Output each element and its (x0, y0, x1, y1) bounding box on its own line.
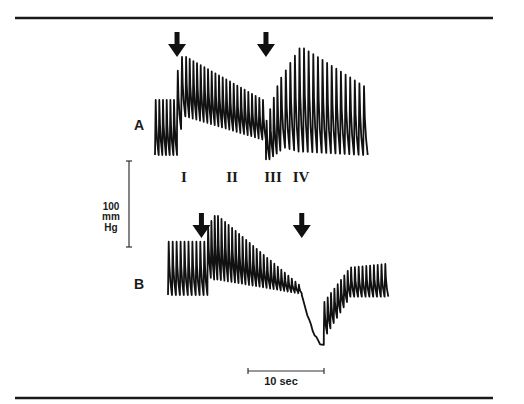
figure: A B I II III IV 100 mm Hg 10 sec (0, 0, 524, 404)
pressure-scale-unit-hg: Hg (104, 222, 117, 233)
pressure-scale-bar: 100 mm Hg (102, 161, 132, 247)
trace-line-a (155, 48, 368, 159)
time-scale-bar: 10 sec (248, 368, 324, 387)
phase-label-2: II (226, 169, 238, 185)
arrow-down-icon-a-1 (168, 32, 186, 57)
phase-label-1: I (181, 169, 187, 185)
panel-label-a: A (134, 117, 144, 133)
phase-label-3: III (264, 169, 282, 185)
trace-a (155, 48, 368, 159)
panel-label-b: B (134, 276, 144, 292)
pressure-scale-unit-mm: mm (102, 211, 120, 222)
time-scale-label: 10 sec (264, 375, 298, 387)
arrow-down-icon-b-2 (293, 213, 311, 238)
arrow-down-icon-a-2 (257, 32, 275, 57)
phase-label-4: IV (293, 169, 310, 185)
